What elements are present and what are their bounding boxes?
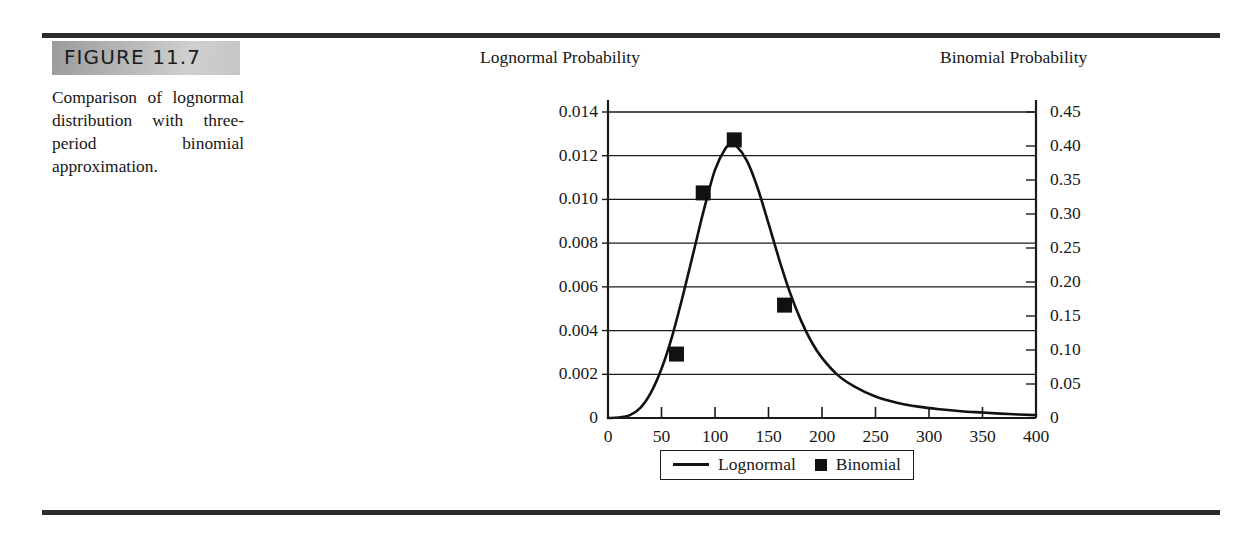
x-tick-label: 300 [906, 426, 952, 447]
binomial-markers [669, 132, 792, 361]
x-tick-label: 50 [639, 426, 685, 447]
right-tick-label: 0.45 [1050, 101, 1110, 122]
right-tick-label: 0 [1050, 407, 1110, 428]
left-tick-label: 0.008 [524, 232, 598, 253]
legend-label-binomial: Binomial [836, 454, 901, 475]
x-tick-label: 400 [1013, 426, 1059, 447]
x-tick-label: 150 [746, 426, 792, 447]
right-tick-label: 0.05 [1050, 373, 1110, 394]
right-tick-label: 0.35 [1050, 169, 1110, 190]
right-tick-label: 0.20 [1050, 271, 1110, 292]
right-tick-label: 0.30 [1050, 203, 1110, 224]
figure-caption: Comparison of lognormal distribution wit… [52, 86, 244, 179]
left-tick-label: 0 [524, 407, 598, 428]
x-tick-label: 0 [585, 426, 631, 447]
right-axis-ticks [1026, 112, 1036, 384]
x-tick-label: 200 [799, 426, 845, 447]
left-tick-label: 0.010 [524, 188, 598, 209]
lognormal-curve [608, 144, 1036, 418]
legend-line-swatch [673, 463, 709, 465]
right-tick-label: 0.15 [1050, 305, 1110, 326]
x-tick-label: 100 [692, 426, 738, 447]
axis-frame [608, 100, 1036, 418]
x-tick-label: 250 [853, 426, 899, 447]
left-tick-label: 0.014 [524, 101, 598, 122]
legend-label-lognormal: Lognormal [718, 454, 796, 475]
chart: Lognormal Probability Binomial Probabili… [455, 42, 1215, 492]
top-rule [42, 33, 1220, 38]
left-tick-label: 0.004 [524, 320, 598, 341]
left-tick-label: 0.006 [524, 276, 598, 297]
chart-legend: Lognormal Binomial [660, 450, 914, 480]
left-tick-label: 0.012 [524, 145, 598, 166]
right-tick-label: 0.40 [1050, 135, 1110, 156]
right-tick-label: 0.25 [1050, 237, 1110, 258]
figure-label: FIGURE 11.7 [64, 45, 264, 69]
right-tick-label: 0.10 [1050, 339, 1110, 360]
left-tick-label: 0.002 [524, 363, 598, 384]
x-tick-label: 350 [960, 426, 1006, 447]
legend-square-swatch [815, 459, 827, 471]
bottom-rule [42, 510, 1220, 515]
